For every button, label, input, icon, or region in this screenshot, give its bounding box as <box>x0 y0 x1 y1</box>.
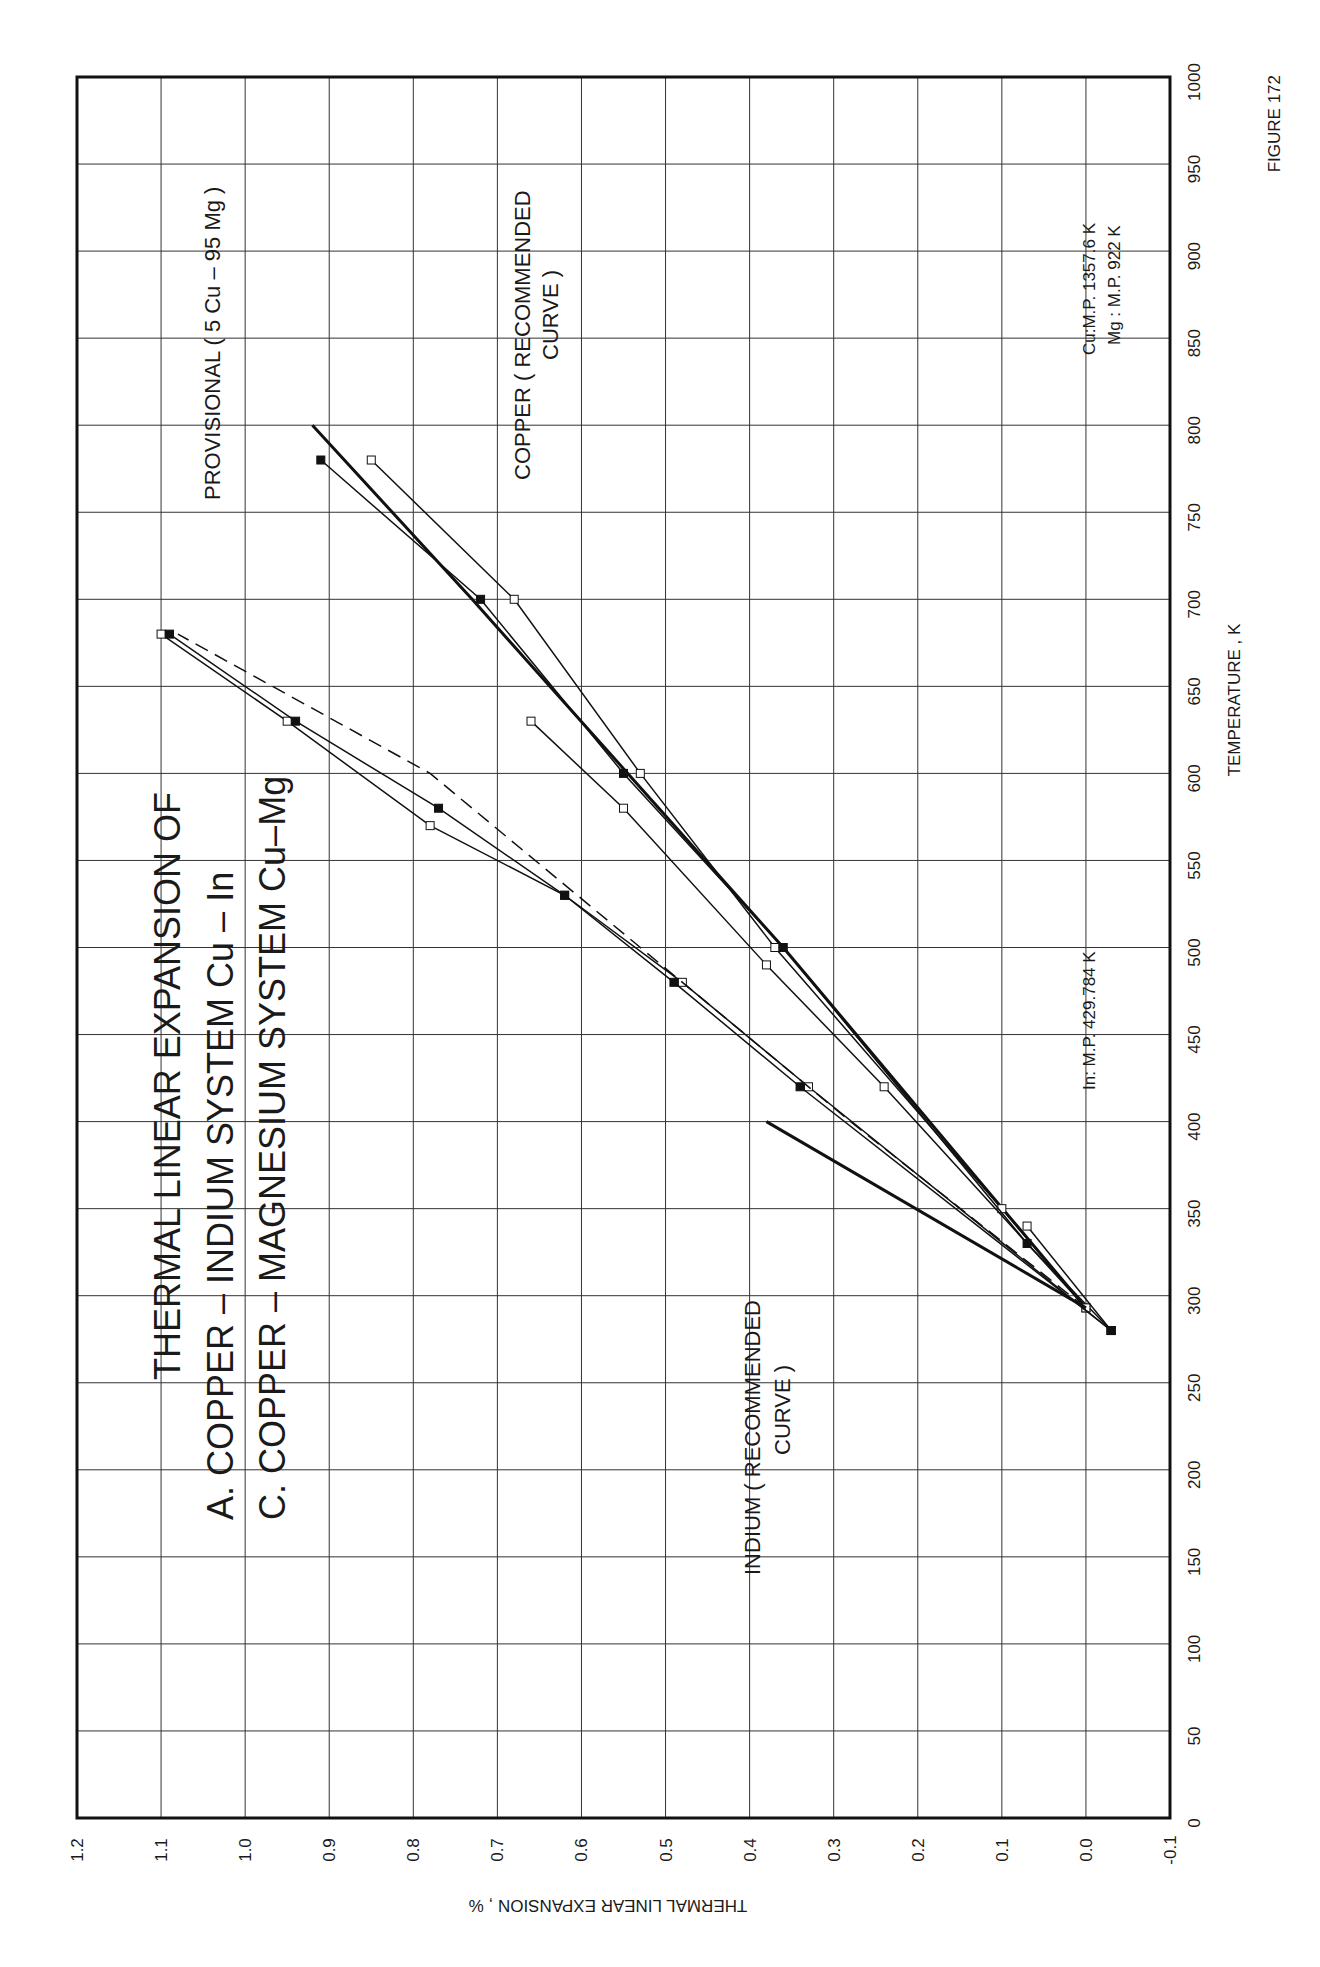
data-point-marker <box>1023 1222 1031 1230</box>
series-line-indium <box>766 1122 1085 1308</box>
x-tick-label: 800 <box>1185 416 1204 444</box>
y-tick-label: 0.2 <box>909 1838 928 1862</box>
indium-label-line-2: CURVE ) <box>770 1365 795 1455</box>
chart-title-line-2: A. COPPER – INDIUM SYSTEM Cu – In <box>200 872 241 1520</box>
y-axis-title: THERMAL LINEAR EXPANSION , % <box>469 1896 748 1915</box>
data-point-marker <box>317 456 325 464</box>
data-point-marker <box>880 1083 888 1091</box>
series-line-3a <box>531 721 1086 1308</box>
x-tick-label: 600 <box>1185 764 1204 792</box>
x-tick-label: 450 <box>1185 1025 1204 1053</box>
x-tick-label: 200 <box>1185 1461 1204 1489</box>
series-line-4a <box>1027 1226 1111 1330</box>
chart-title-line-1: THERMAL LINEAR EXPANSION OF <box>147 792 188 1380</box>
y-tick-label: 0.4 <box>741 1838 760 1862</box>
data-point-marker <box>796 1083 804 1091</box>
in-melting-point-note: In: M.P. 429.784 K <box>1080 951 1099 1090</box>
data-point-marker <box>1107 1327 1115 1335</box>
x-tick-label: 1000 <box>1185 63 1204 101</box>
data-point-marker <box>670 978 678 986</box>
x-tick-label: 350 <box>1185 1199 1204 1227</box>
x-tick-label: 500 <box>1185 938 1204 966</box>
data-point-marker <box>435 804 443 812</box>
figure-label: FIGURE 172 <box>1265 75 1284 172</box>
x-tick-label: 50 <box>1185 1726 1204 1745</box>
series-line-1c <box>161 634 1111 1330</box>
data-point-marker <box>426 822 434 830</box>
x-tick-label: 100 <box>1185 1635 1204 1663</box>
indium-label-line-1: INDIUM ( RECOMMENDED <box>740 1300 765 1575</box>
x-tick-label: 750 <box>1185 503 1204 531</box>
x-tick-label: 950 <box>1185 155 1204 183</box>
y-tick-label: 0.1 <box>993 1838 1012 1862</box>
y-tick-label: 0.5 <box>657 1838 676 1862</box>
data-point-marker <box>636 769 644 777</box>
chart-title-line-3: C. COPPER – MAGNESIUM SYSTEM Cu–Mg <box>252 776 293 1520</box>
x-tick-label: 400 <box>1185 1112 1204 1140</box>
y-tick-label: 1.1 <box>152 1838 171 1862</box>
x-tick-label: 700 <box>1185 590 1204 618</box>
x-tick-label: 550 <box>1185 851 1204 879</box>
y-tick-label: 0.6 <box>572 1838 591 1862</box>
x-tick-label: 0 <box>1185 1818 1204 1827</box>
provisional-label: PROVISIONAL ( 5 Cu – 95 Mg ) <box>200 187 225 500</box>
data-point-marker <box>779 944 787 952</box>
data-point-marker <box>620 769 628 777</box>
x-tick-label: 250 <box>1185 1374 1204 1402</box>
x-tick-label: 650 <box>1185 677 1204 705</box>
data-point-marker <box>157 630 165 638</box>
y-tick-label: 0.8 <box>404 1838 423 1862</box>
cu-melting-point-note: Cu:M.P. 1357.6 K <box>1080 222 1099 355</box>
data-point-marker <box>620 804 628 812</box>
chart-figure: 0501001502002503003504004505005506006507… <box>0 0 1320 1967</box>
series-line-2a <box>321 460 1111 1331</box>
data-point-marker <box>561 891 569 899</box>
mg-melting-point-note: Mg : M.P. 922 K <box>1105 225 1124 345</box>
y-tick-label: 0.7 <box>488 1838 507 1862</box>
copper-label-line-2: CURVE ) <box>538 270 563 360</box>
y-tick-label: 0.0 <box>1077 1838 1096 1862</box>
data-point-marker <box>771 944 779 952</box>
y-tick-label: 0.9 <box>320 1838 339 1862</box>
series-line-copper <box>312 425 1086 1308</box>
x-tick-label: 850 <box>1185 329 1204 357</box>
data-point-marker <box>367 456 375 464</box>
data-point-marker <box>527 717 535 725</box>
copper-label-line-1: COPPER ( RECOMMENDED <box>510 190 535 480</box>
data-point-marker <box>165 630 173 638</box>
y-tick-label: -0.1 <box>1161 1835 1180 1864</box>
x-tick-label: 150 <box>1185 1548 1204 1576</box>
y-tick-label: 1.2 <box>68 1838 87 1862</box>
x-axis-title: TEMPERATURE , K <box>1225 623 1244 776</box>
y-tick-label: 0.3 <box>825 1838 844 1862</box>
series-line-provisional <box>178 634 1086 1308</box>
chart-canvas: 0501001502002503003504004505005506006507… <box>0 0 1320 1967</box>
data-point-marker <box>283 717 291 725</box>
y-tick-label: 1.0 <box>236 1838 255 1862</box>
data-point-marker <box>510 595 518 603</box>
data-point-marker <box>477 595 485 603</box>
data-point-marker <box>292 717 300 725</box>
x-tick-label: 300 <box>1185 1287 1204 1315</box>
data-point-marker <box>762 961 770 969</box>
x-tick-label: 900 <box>1185 242 1204 270</box>
